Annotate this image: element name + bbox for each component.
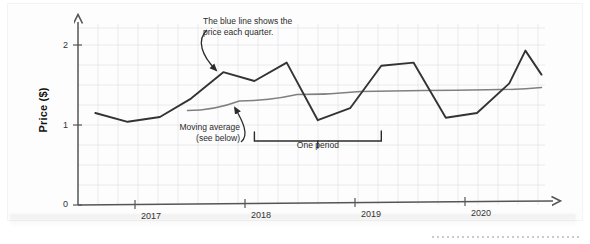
x-tick-label-2019: 2019: [351, 209, 391, 219]
series-note-text: The blue line shows the price each quart…: [203, 16, 333, 38]
x-tick-label-2018: 2018: [241, 210, 281, 220]
x-tick-label-2017: 2017: [131, 211, 171, 221]
x-tick-label-2020: 2020: [461, 208, 501, 218]
y-axis-title: Price ($): [37, 60, 49, 160]
y-tick-label-1: 1: [52, 120, 68, 130]
grid-lines: [78, 24, 545, 205]
x-axis: [78, 201, 553, 205]
y-tick-label-0: 0: [52, 199, 68, 209]
y-tick-label-2: 2: [52, 40, 68, 50]
one-period-note-text: One period: [283, 140, 353, 151]
chart-screenshot: Price ($) 2 1 0 2017 2018 2019 2020 The …: [0, 0, 590, 244]
moving-average-note-text: Moving average (see below): [156, 122, 240, 144]
moving-average-line: [188, 87, 542, 110]
price-series: [95, 51, 541, 122]
